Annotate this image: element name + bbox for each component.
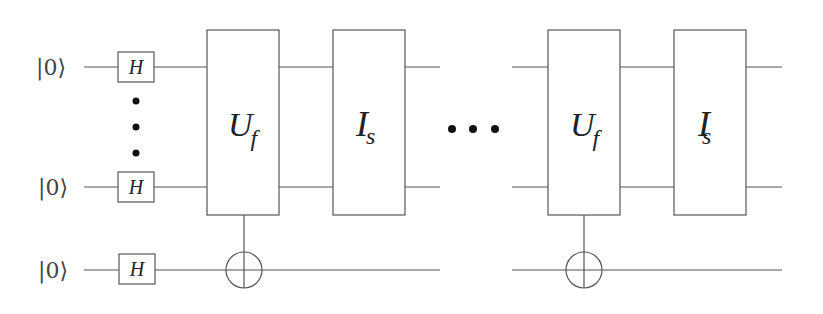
hadamard-label-2: H (128, 176, 145, 198)
vertical-ellipsis-icon (133, 98, 140, 157)
hadamard-label-1: H (128, 56, 145, 78)
horizontal-ellipsis-icon (448, 125, 499, 133)
input-ket-3: |0⟩ (38, 258, 68, 284)
input-ket-2: |0⟩ (38, 175, 68, 201)
quantum-circuit: |0⟩ |0⟩ |0⟩ H H H Uf Is Uf Is (0, 0, 823, 314)
hadamard-label-3: H (129, 258, 146, 280)
inversion-label-2: Is (697, 104, 712, 149)
input-ket-1: |0⟩ (36, 55, 66, 81)
